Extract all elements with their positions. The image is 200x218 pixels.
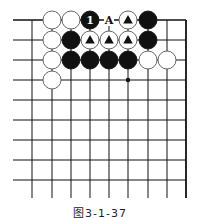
black-stone [62,51,80,69]
star-point [126,78,130,82]
white-stone [43,11,61,29]
move-number: 1 [86,14,94,27]
white-stone [43,31,61,49]
white-stone [43,51,61,69]
figure-caption: 图3-1-37 [0,204,200,218]
point-label-a: A [104,14,114,27]
white-stone [62,11,80,29]
white-stone [158,51,176,69]
black-stone [100,51,118,69]
white-stone [43,71,61,89]
black-stone [62,31,80,49]
go-board: A1 [0,0,200,200]
black-stone [119,51,137,69]
black-stone [81,51,99,69]
black-stone [139,11,157,29]
white-stone [139,51,157,69]
black-stone [139,31,157,49]
